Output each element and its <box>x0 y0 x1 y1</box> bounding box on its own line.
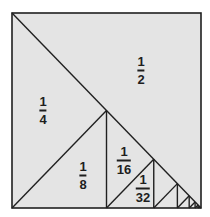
label-one-half: 1 2 <box>137 55 144 86</box>
label-one-eighth: 1 8 <box>79 160 86 191</box>
denominator: 2 <box>137 73 144 86</box>
numerator: 1 <box>139 173 146 186</box>
label-one-thirty-second: 1 32 <box>136 173 150 204</box>
denominator: 32 <box>136 191 150 204</box>
label-one-sixteenth: 1 16 <box>117 145 131 176</box>
numerator: 1 <box>120 145 127 158</box>
denominator: 4 <box>39 113 46 126</box>
numerator: 1 <box>137 55 144 68</box>
denominator: 16 <box>117 163 131 176</box>
label-one-quarter: 1 4 <box>39 95 46 126</box>
geometric-series-diagram <box>0 0 210 217</box>
denominator: 8 <box>79 178 86 191</box>
numerator: 1 <box>39 95 46 108</box>
numerator: 1 <box>79 160 86 173</box>
